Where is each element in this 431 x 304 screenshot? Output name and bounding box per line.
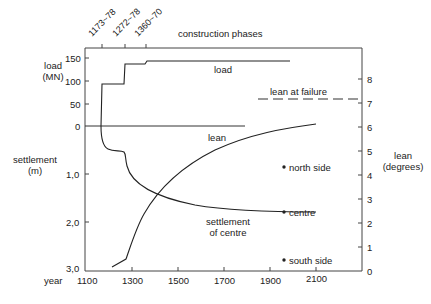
lean-axis-ticks — [358, 79, 362, 247]
year-tick-2100: 2100 — [306, 273, 327, 284]
north-side-label: north side — [289, 162, 331, 173]
settlement-axis-label: settlement (m) — [10, 154, 60, 176]
settlement-tick-1: 1,0 — [66, 169, 79, 180]
lean-tick-3: 3 — [367, 194, 372, 205]
lean-tick-1: 1 — [367, 242, 372, 253]
centre-label: centre — [289, 207, 315, 218]
lean-axis-label-line1: lean — [378, 150, 428, 161]
lean-tick-7: 7 — [367, 98, 372, 109]
load-curve-label: load — [214, 64, 232, 75]
year-tick-1700: 1700 — [214, 275, 235, 286]
lean-curve-label: lean — [208, 132, 226, 143]
south-side-label: south side — [289, 255, 332, 266]
lean-tick-4: 4 — [367, 170, 372, 181]
load-tick-0: 0 — [75, 121, 80, 132]
year-tick-1300: 1300 — [122, 275, 143, 286]
load-axis-ticks — [85, 58, 89, 104]
load-axis-label-line1: load — [40, 60, 66, 71]
lean-tick-6: 6 — [367, 122, 372, 133]
year-axis-label: year — [44, 275, 62, 286]
settlement-axis-label-line1: settlement — [10, 154, 60, 165]
load-tick-100: 100 — [65, 76, 81, 87]
lean-tick-2: 2 — [367, 218, 372, 229]
lean-curve — [112, 124, 316, 267]
settlement-axis-ticks — [85, 174, 89, 222]
year-tick-1100: 1100 — [77, 275, 97, 286]
north-side-marker — [282, 165, 285, 168]
settlement-curve-label: settlement of centre — [198, 216, 258, 238]
point-markers — [282, 165, 285, 261]
settlement-curve-label-line1: settlement — [198, 216, 258, 227]
phase-ticks — [102, 44, 146, 48]
load-curve — [101, 61, 290, 126]
centre-marker — [282, 210, 285, 213]
load-tick-50: 50 — [70, 99, 81, 110]
load-tick-150: 150 — [65, 53, 81, 64]
lean-tick-8: 8 — [367, 74, 372, 85]
chart-title: construction phases — [178, 28, 263, 39]
settlement-tick-3: 3,0 — [66, 263, 79, 274]
load-axis-label-line2: (MN) — [40, 71, 66, 82]
year-axis-ticks — [132, 267, 316, 271]
year-tick-1500: 1500 — [168, 275, 189, 286]
lean-at-failure-label: lean at failure — [270, 86, 327, 97]
lean-tick-0: 0 — [367, 266, 372, 277]
load-axis-label: load (MN) — [40, 60, 66, 82]
south-side-marker — [282, 258, 285, 261]
lean-axis-label: lean (degrees) — [378, 150, 428, 172]
settlement-curve-label-line2: of centre — [198, 227, 258, 238]
year-tick-1900: 1900 — [260, 275, 281, 286]
lean-tick-5: 5 — [367, 146, 372, 157]
settlement-axis-label-line2: (m) — [10, 165, 60, 176]
settlement-tick-2: 2,0 — [66, 217, 79, 228]
lean-axis-label-line2: (degrees) — [378, 161, 428, 172]
